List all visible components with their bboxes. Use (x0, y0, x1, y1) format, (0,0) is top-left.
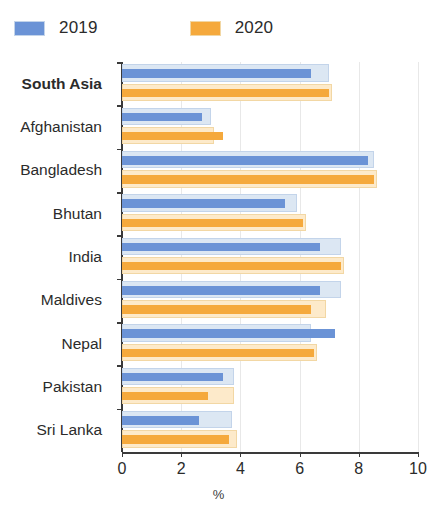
bar-2020-value (122, 349, 314, 358)
x-axis-tick (122, 452, 123, 457)
bar-2019 (122, 324, 418, 341)
x-axis-tick-label: 8 (354, 460, 363, 478)
bar-2020 (122, 84, 418, 101)
bar-2020 (122, 214, 418, 231)
x-axis-tick (359, 452, 360, 457)
x-axis-tick (300, 452, 301, 457)
bar-2019 (122, 238, 418, 255)
legend-label-2019: 2019 (59, 18, 98, 38)
bar-row (122, 149, 418, 192)
bar-2019 (122, 151, 418, 168)
bar-2020-value (122, 262, 341, 271)
bar-2020-value (122, 392, 208, 401)
bar-2019-value (122, 416, 199, 425)
y-axis-tick (117, 409, 122, 411)
legend-item-2019: 2019 (14, 18, 98, 38)
y-axis-tick (117, 235, 122, 237)
y-axis-tick (117, 149, 122, 151)
bar-2020 (122, 170, 418, 187)
x-axis-tick (181, 452, 182, 457)
y-axis-label: Bangladesh (20, 161, 102, 179)
bar-2019-value (122, 329, 335, 338)
bar-row (122, 62, 418, 105)
x-axis-line (122, 452, 418, 454)
bar-2019-value (122, 156, 368, 165)
bar-2020 (122, 430, 418, 447)
x-axis-title: % (0, 487, 437, 502)
bar-2020 (122, 344, 418, 361)
bar-2019-value (122, 69, 311, 78)
legend-swatch-2020 (190, 21, 221, 36)
bar-2019 (122, 194, 418, 211)
x-axis-tick-label: 6 (295, 460, 304, 478)
y-axis-tick (117, 62, 122, 64)
bar-2019 (122, 411, 418, 428)
chart-legend: 2019 2020 (0, 0, 437, 56)
bar-2020-value (122, 132, 223, 141)
bar-2020-value (122, 219, 303, 228)
bar-row (122, 192, 418, 235)
x-axis-tick-label: 2 (177, 460, 186, 478)
y-axis-tick (117, 192, 122, 194)
y-axis-label: India (68, 248, 102, 266)
y-axis-tick (117, 279, 122, 281)
gridline (418, 62, 419, 452)
x-axis-tick (418, 452, 419, 457)
y-axis-tick (117, 365, 122, 367)
bar-row (122, 105, 418, 148)
bar-2019 (122, 108, 418, 125)
y-axis-label: Bhutan (53, 205, 102, 223)
legend-item-2020: 2020 (190, 18, 274, 38)
y-axis-label: Maldives (41, 291, 102, 309)
bar-2019 (122, 368, 418, 385)
bar-row (122, 322, 418, 365)
x-axis-tick-label: 4 (236, 460, 245, 478)
x-axis-tick (240, 452, 241, 457)
bar-2019-value (122, 243, 320, 252)
bar-2019-value (122, 286, 320, 295)
bar-2020 (122, 387, 418, 404)
x-axis-tick-label: 0 (118, 460, 127, 478)
bar-2019 (122, 64, 418, 81)
bar-2019-value (122, 199, 285, 208)
y-axis-labels: South AsiaAfghanistanBangladeshBhutanInd… (0, 62, 112, 452)
legend-swatch-2019 (14, 21, 45, 36)
bar-2020 (122, 257, 418, 274)
bar-row (122, 365, 418, 408)
y-axis-label: Sri Lanka (37, 421, 102, 439)
bar-2019 (122, 281, 418, 298)
bar-2019-value (122, 113, 202, 122)
y-axis-tick (117, 322, 122, 324)
legend-label-2020: 2020 (235, 18, 274, 38)
bar-2020-value (122, 175, 374, 184)
bar-2019-value (122, 373, 223, 382)
y-axis-tick (117, 105, 122, 107)
y-axis-label: Afghanistan (20, 118, 102, 136)
bar-row (122, 409, 418, 452)
plot-area (122, 62, 418, 452)
bar-row (122, 235, 418, 278)
bar-2020 (122, 300, 418, 317)
bar-2020-value (122, 305, 311, 314)
bar-2020-value (122, 89, 329, 98)
bar-2020 (122, 127, 418, 144)
y-axis-label: Nepal (62, 335, 103, 353)
y-axis-label: Pakistan (43, 378, 102, 396)
bar-chart: 2019 2020 South AsiaAfghanistanBanglades… (0, 0, 437, 511)
bar-2020-value (122, 435, 229, 444)
bar-row (122, 279, 418, 322)
x-axis-tick-label: 10 (409, 460, 427, 478)
y-axis-label: South Asia (22, 75, 102, 93)
